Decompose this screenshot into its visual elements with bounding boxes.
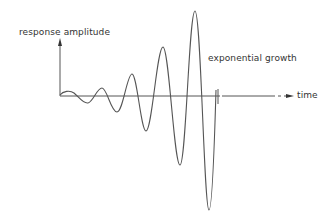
oscillation-curve [60,11,216,210]
curve-label: exponential growth [208,53,297,63]
x-axis-arrow-icon [286,94,294,98]
x-axis-label: time [297,90,318,100]
y-axis [58,38,62,96]
y-axis-arrow-icon [58,38,62,46]
y-axis-label: response amplitude [19,27,110,37]
exponential-growth-diagram: response amplitude exponential growth ti… [0,0,328,221]
x-axis [60,89,294,104]
